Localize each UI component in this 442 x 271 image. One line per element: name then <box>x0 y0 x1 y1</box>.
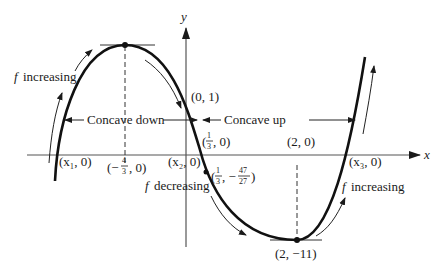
svg-text:3: 3 <box>216 177 220 186</box>
concave-down-label: Concave down <box>87 112 165 127</box>
y-intercept-label: (0, 1) <box>191 89 219 104</box>
inflection-point-label: ( 1 3 , − 47 27 ) <box>211 166 255 186</box>
x1-root-label: (x₁, 0) <box>59 154 92 169</box>
max-foot-label: (− 4 3 , 0) <box>107 156 146 176</box>
svg-text:): ) <box>251 169 255 184</box>
f-symbol-decreasing: f <box>145 178 151 193</box>
svg-text:, 0): , 0) <box>129 160 146 175</box>
x-axis-label: x <box>423 147 430 162</box>
svg-text:, 0): , 0) <box>213 134 230 149</box>
f-increasing-left-label: increasing <box>23 69 77 84</box>
svg-text:(−: (− <box>107 160 119 175</box>
y-axis-label: y <box>179 9 187 24</box>
svg-text:1: 1 <box>207 131 211 140</box>
increasing-arrow-right-upper <box>363 66 374 134</box>
svg-text:4: 4 <box>122 156 126 165</box>
min-foot-label: (2, 0) <box>287 134 315 149</box>
cubic-function-diagram: x y Concave down Concave up (0, 1) f inc… <box>0 0 442 271</box>
svg-text:, −: , − <box>222 169 236 184</box>
svg-text:1: 1 <box>216 166 220 175</box>
inflection-foot-label: ( 1 3 , 0) <box>202 131 230 151</box>
svg-text:3: 3 <box>122 167 126 176</box>
concave-up-label: Concave up <box>224 112 286 127</box>
local-min-point <box>294 237 300 243</box>
f-symbol-right: f <box>342 179 348 194</box>
increasing-arrow-left-upper <box>75 50 92 71</box>
svg-text:(: ( <box>202 134 206 149</box>
svg-text:47: 47 <box>239 166 247 175</box>
local-min-label: (2, −11) <box>275 246 317 261</box>
f-symbol-left: f <box>14 69 20 84</box>
increasing-arrow-left-lower <box>49 93 62 163</box>
inflection-point <box>204 170 209 175</box>
f-decreasing-label: decreasing <box>154 178 210 193</box>
svg-text:3: 3 <box>207 142 211 151</box>
f-increasing-right-label: increasing <box>351 179 405 194</box>
decreasing-arrow-lower <box>211 196 246 235</box>
x3-root-label: (x₃, 0) <box>349 154 382 169</box>
svg-text:27: 27 <box>239 177 247 186</box>
x2-root-label: (x₂, 0) <box>168 154 201 169</box>
svg-text:(: ( <box>211 169 215 184</box>
local-max-point <box>122 42 128 48</box>
